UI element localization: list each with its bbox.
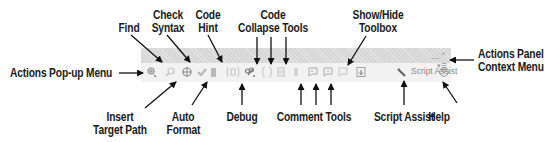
actions-panel-toolbar: — × ▾☰ — [141, 48, 451, 82]
line-comment-icon[interactable] — [322, 66, 334, 78]
callout-code-collapse-line2: Collapse Tools — [234, 22, 311, 35]
toolbox-icon[interactable] — [355, 66, 367, 78]
callout-help: Help — [425, 111, 453, 124]
callout-actions-panel-line2: Context Menu — [478, 61, 544, 74]
toolbar-title-bar — [141, 48, 451, 63]
collapse-selection-icon[interactable] — [275, 66, 287, 78]
auto-format-icon[interactable] — [208, 66, 220, 78]
callout-actions-popup-menu: Actions Pop-up Menu — [10, 67, 112, 80]
callout-find: Find — [117, 22, 142, 35]
debug-icon[interactable] — [244, 66, 256, 78]
code-hint-icon[interactable] — [225, 66, 241, 78]
callout-insert-target-line2: Target Path — [91, 124, 148, 137]
close-icon[interactable]: × — [441, 50, 446, 58]
add-actions-icon[interactable] — [146, 66, 158, 78]
find-icon[interactable] — [164, 66, 176, 78]
target-icon[interactable] — [181, 66, 193, 78]
help-icon[interactable] — [438, 66, 450, 78]
script-assist-icon — [396, 66, 408, 78]
callout-comment-tools: Comment Tools — [276, 111, 351, 124]
collapse-braces-icon[interactable] — [261, 66, 273, 78]
callout-show-hide-line2: Toolbox — [349, 22, 406, 35]
minimize-icon[interactable]: — — [431, 54, 439, 62]
callout-check-syntax-line2: Syntax — [152, 22, 185, 35]
remove-comment-icon[interactable] — [337, 66, 349, 78]
callout-debug: Debug — [222, 111, 261, 124]
checkmark-icon[interactable] — [196, 66, 208, 78]
callout-code-hint-line2: Hint — [194, 22, 222, 35]
callout-auto-format-line2: Format — [167, 124, 200, 137]
block-comment-icon[interactable] — [307, 66, 319, 78]
expand-all-icon[interactable] — [290, 66, 302, 78]
script-assist-button[interactable]: Script Assist — [411, 66, 457, 76]
